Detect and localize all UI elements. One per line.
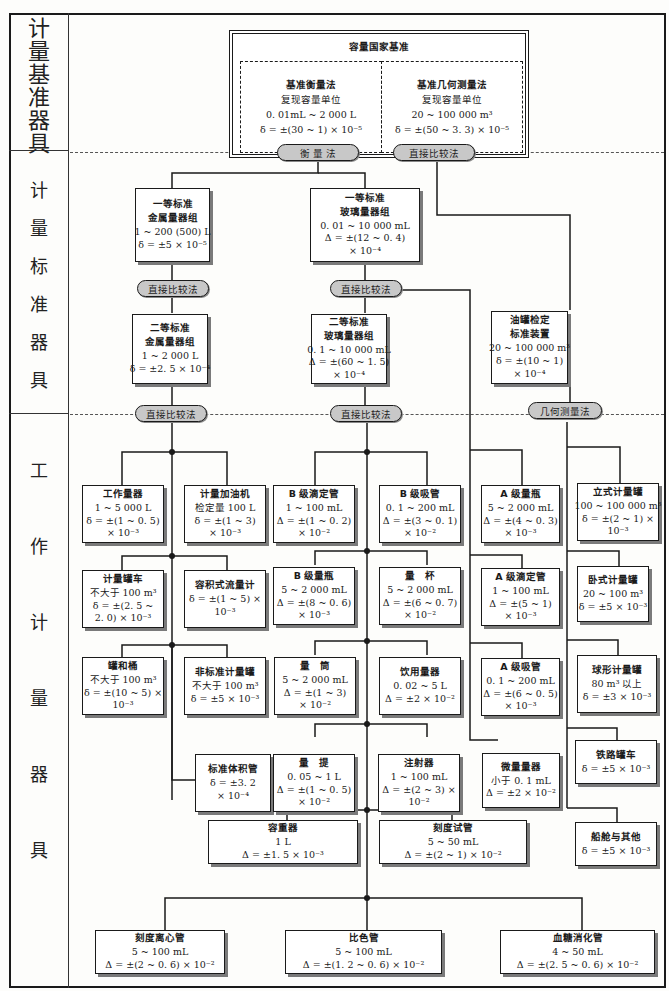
working-c1: 容重器1 LΔ = ±1. 5 × 10⁻³ <box>208 820 358 864</box>
method-direct-compare-top: 直接比较法 <box>393 144 475 161</box>
working-w6: 非标准计量罐不大于 100 m³δ = ±5 × 10⁻³ <box>184 657 266 715</box>
working-a1: A 级量瓶5 ~ 2 000 mLΔ = ±(4 ~ 0. 3)× 10⁻³ <box>481 485 560 543</box>
method-direct-compare-glass2: 直接比较法 <box>330 405 402 422</box>
working-g1: B 级滴定管1 ~ 100 mLΔ = ±(1 ~ 0. 2)× 10⁻² <box>273 485 355 543</box>
national-standard-box: 容量国家基准 基准衡量法 复现容量单位 0. 01mL ~ 2 000 L δ … <box>229 30 529 158</box>
working-t2: 卧式计量罐20 ~ 100 m³δ = ±5 × 10⁻³ <box>577 566 649 622</box>
working-w4: 容积式流量计δ = ±(1 ~ 5) ×10⁻³ <box>184 570 266 628</box>
standard-tank-calibration: 油罐检定标准装置20 ~ 100 000 m³δ = ±(10 ~ 1)× 10… <box>491 311 568 384</box>
working-w1: 工作量器1 ~ 5 000 Lδ = ±(1 ~ 0. 5)× 10⁻³ <box>82 485 164 543</box>
working-a3: A 级吸管0. 1 ~ 200 mLΔ = ±(6 ~ 0. 5)× 10⁻³ <box>481 658 560 716</box>
method-weighing: 衡 量 法 <box>277 144 359 161</box>
working-g6: 饮用量器0. 02 ~ 5 LΔ = ±2 × 10⁻² <box>379 657 461 715</box>
working-w3: 计量罐车不大于 100 m³δ = ±(2. 5 ~2. 0) × 10⁻³ <box>82 570 164 628</box>
working-g4: 量 杯5 ~ 2 000 mLΔ = ±(6 ~ 0. 7)× 10⁻² <box>379 567 461 625</box>
working-w2: 计量加油机检定量 100 Lδ = ±(1 ~ 3)× 10⁻³ <box>184 485 266 543</box>
standard-metal-1: 一等标准金属量器组1 ~ 200 (500) Lδ = ±5 × 10⁻⁵ <box>135 188 210 262</box>
working-t4: 铁路罐车δ = ±5 × 10⁻³ <box>575 740 657 784</box>
national-standard-title: 容量国家基准 <box>233 39 525 53</box>
side-label-working-instruments: 工作计量器具 <box>9 462 69 860</box>
weighing-method-box: 基准衡量法 复现容量单位 0. 01mL ~ 2 000 L δ = ±(30 … <box>240 61 382 153</box>
working-b2: 比色管5 ~ 100 mLΔ = ±(1. 2 ~ 0. 6) × 10⁻² <box>285 930 442 974</box>
standard-glass-1: 一等标准玻璃量器组0. 01 ~ 10 000 mLΔ = ±(12 ~ 0. … <box>310 188 420 262</box>
method-direct-compare-metal1: 直接比较法 <box>137 280 209 297</box>
working-a4: 微量量器小于 0. 1 mLΔ = ±2 × 10⁻² <box>482 753 560 808</box>
working-t3: 球形计量罐80 m³ 以上δ = ±3 × 10⁻³ <box>577 655 657 713</box>
working-w5: 罐和桶不大于 100 m³δ = ±(10 ~ 5) ×10⁻³ <box>82 657 164 715</box>
standard-glass-2: 二等标准玻璃量器组0. 1 ~ 10 000 mLΔ = ±(60 ~ 1. 5… <box>311 314 387 384</box>
working-g2: B 级吸管0. 1 ~ 200 mLΔ = ±(3 ~ 0. 1)× 10⁻² <box>379 485 461 543</box>
working-b1: 刻度离心管5 ~ 100 mLΔ = ±(2 ~ 0. 6) × 10⁻² <box>95 930 225 974</box>
working-t1: 立式计量罐100 ~ 100 000 m³δ = ±(2 ~ 1) ×10⁻³ <box>577 483 659 541</box>
working-g5: 量 筒5 ~ 2 000 mLΔ = ±(1 ~ 3)× 10⁻² <box>274 657 356 715</box>
side-label-primary-standard: 计量基准器具 <box>9 18 69 155</box>
method-geometric: 几何测量法 <box>528 402 602 419</box>
working-g8: 注射器1 ~ 100 mLΔ = ±(2 ~ 3) ×10⁻² <box>378 754 460 812</box>
side-label-measurement-standard: 计量标准器具 <box>9 182 69 390</box>
working-c2: 刻度试管5 ~ 50 mLΔ = ±(2 ~ 1) × 10⁻² <box>379 820 527 864</box>
working-t5: 船舱与其他δ = ±5 × 10⁻³ <box>575 822 657 866</box>
method-direct-compare-metal2: 直接比较法 <box>135 405 207 422</box>
method-direct-compare-glass1: 直接比较法 <box>330 280 402 297</box>
working-g7: 量 提0. 05 ~ 1 LΔ = ±(1 ~ 0. 5)× 10⁻² <box>273 754 355 812</box>
working-g3: B 级量瓶5 ~ 2 000 mLΔ = ±(8 ~ 0. 6)× 10⁻³ <box>273 567 355 625</box>
standard-metal-2: 二等标准金属量器组1 ~ 2 000 Lδ = ±2. 5 × 10⁻⁴ <box>132 314 208 384</box>
working-w7: 标准体积管δ = ±3. 2× 10⁻⁴ <box>195 754 271 812</box>
geometric-method-box: 基准几何测量法 复现容量单位 20 ~ 100 000 m³ δ = ±(50 … <box>381 61 523 153</box>
working-a2: A 级滴定管1 ~ 100 mLΔ = ±(5 ~ 1)× 10⁻³ <box>481 568 560 626</box>
side-divider-2 <box>9 413 69 414</box>
working-b3: 血糖消化管4 ~ 50 mLΔ = ±(2. 5 ~ 0. 6) × 10⁻² <box>500 930 655 974</box>
